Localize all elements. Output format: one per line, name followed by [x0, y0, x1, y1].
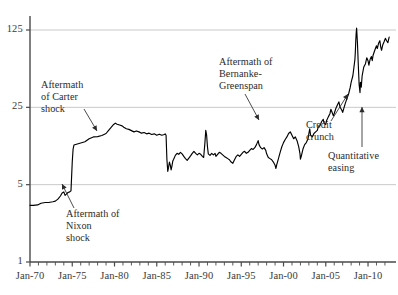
annotation-quantitative-easing: Quantitative easing [328, 150, 379, 174]
annotation-bernanke-greenspan: Aftermath of Bernanke- Greenspan [219, 56, 273, 92]
y-axis-tick-label: 5 [18, 178, 23, 189]
y-axis-tick-label: 25 [12, 100, 23, 111]
annotation-arrowhead [343, 94, 348, 100]
chart-plot-area [0, 0, 398, 295]
annotation-credit-crunch: Credit crunch [306, 119, 334, 143]
x-axis-tick-label: Jan-10 [343, 270, 393, 281]
annotation-carter-shock: Aftermath of Carter shock [41, 79, 83, 115]
price-chart: 1525125 Jan-70Jan-75Jan-80Jan-85Jan-90Ja… [0, 0, 398, 295]
annotation-nixon-shock: Aftermath of Nixon shock [66, 208, 120, 244]
series-line [30, 28, 389, 205]
y-axis-tick-label: 125 [7, 23, 23, 34]
y-axis-tick-label: 1 [18, 255, 23, 266]
